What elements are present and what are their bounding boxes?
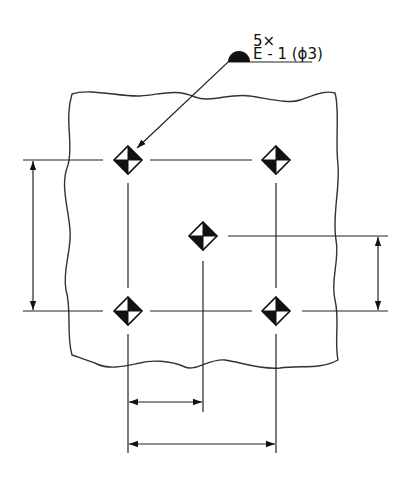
datum-target-center-icon [189,222,217,250]
leader-line [137,62,312,148]
datum-target-top-right-icon [262,146,290,174]
datum-target-callout-icon [228,51,250,62]
datum-target-bottom-left-icon [114,297,142,325]
center-lines [23,160,388,453]
datum-target-top-left-icon [114,146,142,174]
datum-target-drawing: 5× E - 1 (ϕ3) [0,0,409,479]
callout-designation: E - 1 (ϕ3) [253,45,323,63]
datum-target-bottom-right-icon [262,297,290,325]
